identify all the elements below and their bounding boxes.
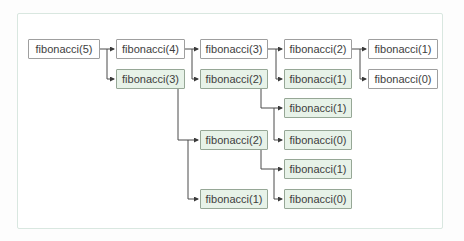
node-fibonacci-2-call1: fibonacci(2) — [284, 39, 352, 59]
node-fibonacci-0-call1: fibonacci(0) — [368, 69, 438, 89]
node-fibonacci-1-call3: fibonacci(1) — [284, 98, 352, 118]
node-fibonacci-0-call3: fibonacci(0) — [284, 189, 352, 209]
node-fibonacci-3-call2: fibonacci(3) — [116, 69, 185, 89]
node-fibonacci-1-call1: fibonacci(1) — [368, 39, 438, 59]
node-fibonacci-1-call2: fibonacci(1) — [284, 69, 352, 89]
node-fibonacci-1-call5: fibonacci(1) — [200, 189, 268, 209]
node-fibonacci-2-call2: fibonacci(2) — [200, 69, 268, 89]
node-fibonacci-3-call1: fibonacci(3) — [200, 39, 268, 59]
node-fibonacci-0-call2: fibonacci(0) — [284, 130, 352, 150]
node-fibonacci-4: fibonacci(4) — [116, 39, 185, 59]
node-fibonacci-5: fibonacci(5) — [28, 39, 100, 59]
node-fibonacci-2-call3: fibonacci(2) — [200, 130, 268, 150]
node-fibonacci-1-call4: fibonacci(1) — [284, 159, 352, 179]
recursion-tree-figure: fibonacci(5) fibonacci(4) fibonacci(3) f… — [0, 0, 464, 241]
